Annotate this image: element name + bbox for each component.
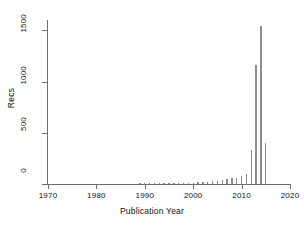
bar-2012 <box>251 150 252 184</box>
chart-figure: 050010001500 197019801990200020102020 Re… <box>0 0 304 225</box>
x-tick-2020 <box>290 185 291 189</box>
x-tick-label-2020: 2020 <box>270 191 304 201</box>
y-tick-label-1500: 1500 <box>8 25 40 35</box>
bar-2001 <box>197 182 198 184</box>
bar-2009 <box>236 178 237 184</box>
bar-1998 <box>183 183 184 184</box>
bar-2003 <box>207 182 208 184</box>
bar-1994 <box>163 183 164 184</box>
bar-1992 <box>154 183 155 184</box>
y-tick-label-text: 1500 <box>19 14 29 46</box>
bar-1989 <box>139 183 140 184</box>
bar-2010 <box>241 176 242 184</box>
y-tick-500 <box>42 133 47 134</box>
x-tick-label-2000: 2000 <box>173 191 213 201</box>
bar-2007 <box>226 179 227 184</box>
y-tick-1500 <box>42 30 47 31</box>
x-tick-label-1980: 1980 <box>76 191 116 201</box>
y-axis-title: Recs <box>0 92 41 104</box>
y-tick-label-500: 500 <box>8 128 40 138</box>
y-tick-label-0: 0 <box>8 179 40 189</box>
bar-1991 <box>149 183 150 184</box>
bar-2005 <box>217 181 218 184</box>
bar-1996 <box>173 183 174 184</box>
bar-2015 <box>265 143 266 184</box>
x-tick-2010 <box>242 185 243 189</box>
x-axis-line <box>47 184 291 185</box>
bar-1997 <box>178 183 179 184</box>
x-tick-label-1990: 1990 <box>125 191 165 201</box>
bar-2004 <box>212 181 213 184</box>
bar-2002 <box>202 182 203 184</box>
y-tick-1000 <box>42 82 47 83</box>
plot-area <box>48 20 290 184</box>
x-tick-label-2010: 2010 <box>222 191 262 201</box>
x-tick-1970 <box>48 185 49 189</box>
y-axis-title-text: Recs <box>5 68 17 128</box>
y-tick-label-text: 500 <box>19 117 29 149</box>
bar-1999 <box>188 183 189 184</box>
bar-2000 <box>193 183 194 184</box>
x-tick-2000 <box>193 185 194 189</box>
bar-1995 <box>168 183 169 184</box>
bar-2006 <box>222 180 223 184</box>
bar-2011 <box>246 174 247 184</box>
bar-1993 <box>159 183 160 184</box>
x-tick-label-1970: 1970 <box>28 191 68 201</box>
bar-2013 <box>255 65 256 184</box>
bar-2008 <box>231 178 232 184</box>
bar-2014 <box>260 26 261 184</box>
x-tick-1990 <box>145 185 146 189</box>
x-axis-title-text: Publication Year <box>0 206 304 217</box>
y-tick-0 <box>42 184 47 185</box>
bar-1990 <box>144 183 145 184</box>
x-tick-1980 <box>96 185 97 189</box>
